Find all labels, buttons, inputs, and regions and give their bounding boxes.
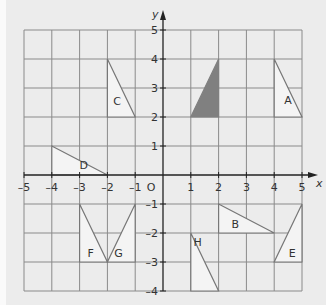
svg-text:–5: –5 — [18, 181, 31, 194]
svg-text:4: 4 — [151, 53, 158, 66]
svg-text:–3: –3 — [73, 181, 86, 194]
svg-text:–3: –3 — [146, 256, 159, 269]
svg-text:2: 2 — [215, 181, 222, 194]
axes: xy — [24, 8, 323, 291]
label-g: G — [114, 247, 123, 260]
svg-text:1: 1 — [151, 140, 158, 153]
svg-text:x: x — [315, 177, 323, 190]
svg-text:2: 2 — [151, 111, 158, 124]
svg-text:4: 4 — [271, 181, 278, 194]
svg-text:y: y — [151, 8, 159, 21]
svg-text:5: 5 — [299, 181, 306, 194]
shape-labels: ABCDEFGH — [80, 94, 296, 261]
coordinate-grid-diagram: xy –5–4–3–2–11234554321–1–2–3–4O ABCDEFG… — [0, 0, 326, 305]
label-c: C — [113, 95, 121, 108]
label-h: H — [194, 236, 202, 249]
svg-text:5: 5 — [151, 24, 158, 37]
label-a: A — [284, 94, 292, 107]
label-e: E — [289, 247, 296, 260]
label-b: B — [232, 218, 240, 231]
label-d: D — [80, 159, 88, 172]
svg-text:1: 1 — [187, 181, 194, 194]
svg-text:3: 3 — [243, 181, 250, 194]
svg-text:–1: –1 — [129, 181, 142, 194]
svg-text:–1: –1 — [146, 198, 159, 211]
svg-text:3: 3 — [151, 82, 158, 95]
svg-text:–2: –2 — [101, 181, 114, 194]
svg-text:–4: –4 — [146, 285, 159, 298]
label-f: F — [88, 247, 94, 260]
svg-text:–2: –2 — [146, 227, 159, 240]
y-arrow-icon — [160, 10, 166, 20]
svg-text:–4: –4 — [46, 181, 59, 194]
svg-text:O: O — [147, 181, 156, 194]
